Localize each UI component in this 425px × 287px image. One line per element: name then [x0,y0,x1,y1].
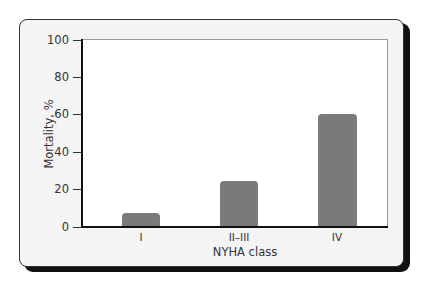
y-tick-20 [73,189,82,190]
x-tick-label: II–III [209,231,269,243]
y-tick-label: 0 [62,221,69,233]
y-tick-label: 40 [54,146,69,158]
y-tick-0 [73,227,82,228]
y-tick-label: 100 [47,34,69,46]
y-tick-40 [73,152,82,153]
y-tick-80 [73,77,82,78]
bar-class-iv [318,114,357,227]
y-tick-label: 20 [54,183,69,195]
x-tick-label: I [111,231,171,243]
bar-class-ii-iii [220,181,258,227]
bar-class-i [122,213,160,227]
y-axis-title: Mortality, % [42,79,56,189]
y-tick-label: 60 [54,108,69,120]
y-axis-line [81,39,83,228]
y-tick-60 [73,114,82,115]
y-tick-label: 80 [54,71,69,83]
x-axis-title: NYHA class [185,245,305,259]
x-axis-line [81,226,388,228]
y-tick-100 [73,40,82,41]
x-tick-label: IV [307,231,367,243]
